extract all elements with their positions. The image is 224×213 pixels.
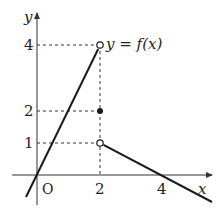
function-label: y = f(x) <box>105 35 162 53</box>
y-axis-label: y <box>23 8 33 26</box>
open-circle-2-4 <box>97 42 103 48</box>
tick-y-1: 1 <box>24 134 34 152</box>
x-axis-label: x <box>198 180 207 198</box>
tick-y-2: 2 <box>24 102 34 120</box>
open-circle-2-1 <box>97 140 103 146</box>
origin-label: O <box>42 181 53 197</box>
tick-y-4: 4 <box>24 36 34 54</box>
filled-dot-2-2 <box>97 108 103 114</box>
tick-x-4: 4 <box>157 180 167 198</box>
function-graph: y x O 4 2 1 2 4 y = f(x) <box>0 0 224 213</box>
tick-x-2: 2 <box>95 180 105 198</box>
